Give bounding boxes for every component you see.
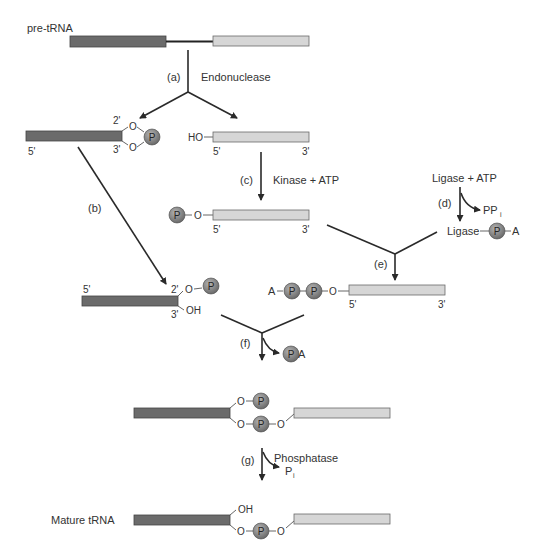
svg-text:P: P (289, 286, 296, 297)
step-e-left (327, 225, 395, 254)
arrow-a-left (140, 92, 188, 118)
mature-trna-label: Mature tRNA (51, 514, 115, 526)
svg-text:A: A (268, 285, 276, 297)
svg-text:OH: OH (238, 504, 253, 515)
step-d-enzyme: Ligase + ATP (432, 172, 497, 184)
svg-text:O: O (237, 396, 245, 407)
step-g-tag: (g) (241, 454, 254, 466)
svg-text:3': 3' (302, 224, 310, 235)
svg-text:5': 5' (83, 284, 91, 295)
svg-text:O: O (277, 526, 285, 537)
ppi-release-arrow (461, 193, 480, 210)
svg-text:3': 3' (438, 299, 446, 310)
svg-text:O: O (277, 419, 285, 430)
svg-text:5': 5' (213, 146, 221, 157)
svg-text:O: O (194, 210, 202, 221)
svg-text:3': 3' (302, 146, 310, 157)
adenylylated-3-exon (349, 285, 445, 295)
svg-text:2': 2' (171, 284, 179, 295)
svg-text:P: P (494, 226, 501, 237)
pi-label: P (285, 465, 292, 477)
ligated-3-exon (294, 408, 390, 418)
two-prime-label: 2' (113, 115, 121, 126)
step-c-enzyme: Kinase + ATP (273, 174, 339, 186)
svg-text:i: i (293, 472, 295, 479)
mature-5-exon (134, 515, 230, 525)
step-b-arrow (78, 147, 166, 284)
arrow-a-right (188, 92, 237, 118)
svg-text:P: P (208, 281, 215, 292)
step-g-enzyme: Phosphatase (274, 452, 338, 464)
ppi-label: PP (483, 204, 498, 216)
opened-5-exon (82, 296, 178, 306)
cleaved-5-exon (26, 131, 122, 141)
svg-text:P: P (258, 526, 265, 537)
svg-text:3': 3' (171, 309, 179, 320)
cleaved-3-exon (213, 132, 309, 142)
svg-text:P: P (258, 396, 265, 407)
step-b-tag: (b) (88, 202, 101, 214)
pre-trna-3-exon (213, 36, 309, 46)
amp-adenosine: A (298, 348, 306, 360)
ho-label: HO (188, 132, 203, 143)
oxygen-3: O (129, 142, 137, 153)
mature-3-exon (294, 514, 390, 524)
svg-text:O: O (329, 286, 337, 297)
svg-text:OH: OH (186, 305, 201, 316)
svg-text:5': 5' (213, 224, 221, 235)
step-f-left (221, 315, 262, 333)
svg-text:A: A (512, 225, 520, 237)
pre-trna-label: pre-tRNA (27, 22, 74, 34)
svg-text:5': 5' (349, 299, 357, 310)
oxygen-2: O (129, 121, 137, 132)
svg-text:P: P (258, 419, 265, 430)
step-c-tag: (c) (240, 174, 253, 186)
pre-trna-5-exon (70, 36, 166, 47)
svg-text:O: O (237, 419, 245, 430)
trna-splicing-diagram: pre-tRNA (a) Endonuclease 5' 2' 3' O O P… (0, 0, 543, 558)
svg-text:P: P (311, 286, 318, 297)
svg-text:P: P (149, 132, 156, 143)
step-f-tag: (f) (240, 337, 250, 349)
step-d-tag: (d) (438, 197, 451, 209)
step-a-tag: (a) (167, 71, 180, 83)
step-e-tag: (e) (374, 258, 387, 270)
three-prime-label: 3' (113, 144, 121, 155)
svg-text:O: O (185, 284, 193, 295)
svg-text:P: P (174, 210, 181, 221)
svg-text:P: P (288, 349, 295, 360)
svg-text:O: O (237, 526, 245, 537)
five-prime-label: 5' (28, 146, 36, 157)
step-f-right (262, 315, 304, 333)
amp-release-arrow (263, 338, 279, 353)
step-a-enzyme: Endonuclease (201, 71, 271, 83)
ligase-label: Ligase (447, 225, 479, 237)
step-e-right (395, 232, 437, 254)
svg-text:i: i (500, 211, 502, 218)
ligated-5-exon (134, 408, 230, 418)
phosphorylated-3-exon (213, 210, 309, 220)
